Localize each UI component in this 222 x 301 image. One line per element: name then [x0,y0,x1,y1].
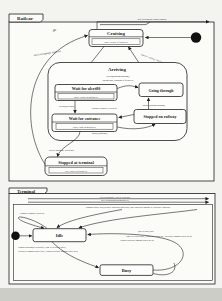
state-cruising: Cruising entry/ 'cruise at fullspeed' [89,30,143,47]
state-going-through-name: Going through [148,88,174,93]
state-idle: Idle [33,229,86,242]
state-stopped-at-terminal-name: Stopped at terminal [58,160,94,165]
state-wait-for-alert80-name: Wait for alert80 [72,86,101,91]
state-cruising-name: Cruising [107,31,125,36]
scanned-page: Railcar new destination/ and/or control … [0,0,222,301]
page-edge-shadow [0,288,222,301]
railcar-frame-label: Railcar [17,16,34,21]
state-stopped-at-terminal-action: exit/ 'travel at fullspeed' [65,170,88,172]
state-busy-name: Busy [122,268,132,273]
state-wait-for-entrance-name: Wait for entrance [69,116,101,121]
state-arriving-name: Arriving [108,67,126,72]
statechart-diagram: Railcar new destination/ and/or control … [0,0,222,301]
state-busy: Busy [100,265,153,276]
terminal-frame-label: Terminal [17,189,36,194]
railcar-initial-state-dot [191,32,201,42]
state-stopped-on-railway-name: Stopped on railway [143,114,176,119]
state-wait-for-alert80: Wait for alert80 entry/ 'cruise at halfs… [55,85,117,101]
state-wait-for-entrance-action: entry/ 'slow to halfspeed' [73,126,96,128]
railcar-frame: Railcar new destination/ and/or control … [9,14,214,181]
state-stopped-on-railway: Stopped on railway [134,110,186,124]
state-wait-for-alert80-action: entry/ 'cruise at halfspeed' [74,96,98,98]
transition-entrance-granted-label: entrance granted/ clutch in [92,107,117,109]
state-idle-name: Idle [56,233,64,238]
terminal-frame: Terminal alert100[nonstop]/ alert at clo… [9,188,215,284]
transition-busy-idle-label-3: 'counterclockwise lagging vehicle go on' [120,239,154,241]
state-going-through: Going through [139,83,183,97]
transition-arrival-stopping-label: arrival stopping/ clutch out [49,149,74,151]
state-wait-for-entrance: Wait for entrance entry/ 'slow to halfsp… [52,114,117,132]
terminal-initial-state-dot [11,232,20,241]
transition-terminal-coming-label: terminal coming/ clutch out [20,212,45,214]
transition-new-destination-label: new destination/ and/or control [138,18,167,20]
state-cruising-action: entry/ 'cruise at fullspeed' [104,41,128,43]
transition-depart-label: go [53,28,57,32]
state-stopped-at-terminal: Stopped at terminal exit/ 'travel at ful… [45,157,107,176]
